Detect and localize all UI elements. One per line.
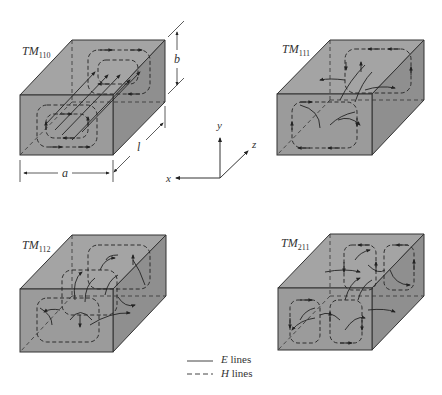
dimension-label-b: b: [174, 52, 180, 67]
coordinate-axes: [176, 138, 248, 178]
mode-label-tm112: TM112: [22, 238, 50, 254]
mode-label-tm211: TM211: [281, 236, 309, 252]
axis-label-y: y: [217, 119, 222, 131]
axis-label-x: x: [166, 172, 171, 184]
legend-item-e-lines: E lines: [221, 353, 251, 365]
dimension-label-l: l: [137, 140, 140, 155]
legend-swatches: [187, 361, 213, 374]
dimension-label-a: a: [62, 166, 68, 181]
axis-label-z: z: [252, 138, 256, 150]
legend-item-h-lines: H lines: [221, 367, 252, 379]
mode-label-tm110: TM110: [22, 44, 50, 60]
mode-label-tm111: TM111: [282, 42, 310, 58]
cavity-mode-diagram: [0, 0, 442, 395]
